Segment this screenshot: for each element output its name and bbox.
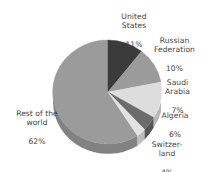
pie-label-russian-federation-name: Russian Federation xyxy=(146,36,203,55)
pie-label-rest-of-world-value: 62% xyxy=(1,137,73,147)
pie-label-rest-of-world: Rest of the world 62% xyxy=(1,99,73,157)
pie-label-switzerland-value: 4% xyxy=(138,168,196,172)
pie-label-algeria-name: Algeria xyxy=(150,111,200,121)
pie-label-switzerland: Switzer- land 4% xyxy=(138,130,196,172)
pie-label-saudi-arabia-name: Saudi Arabia xyxy=(152,78,203,97)
pie-label-switzerland-name: Switzer- land xyxy=(138,140,196,159)
pie-label-rest-of-world-name: Rest of the world xyxy=(1,109,73,128)
pie-chart: United States 11% Russian Federation 10%… xyxy=(0,0,203,172)
